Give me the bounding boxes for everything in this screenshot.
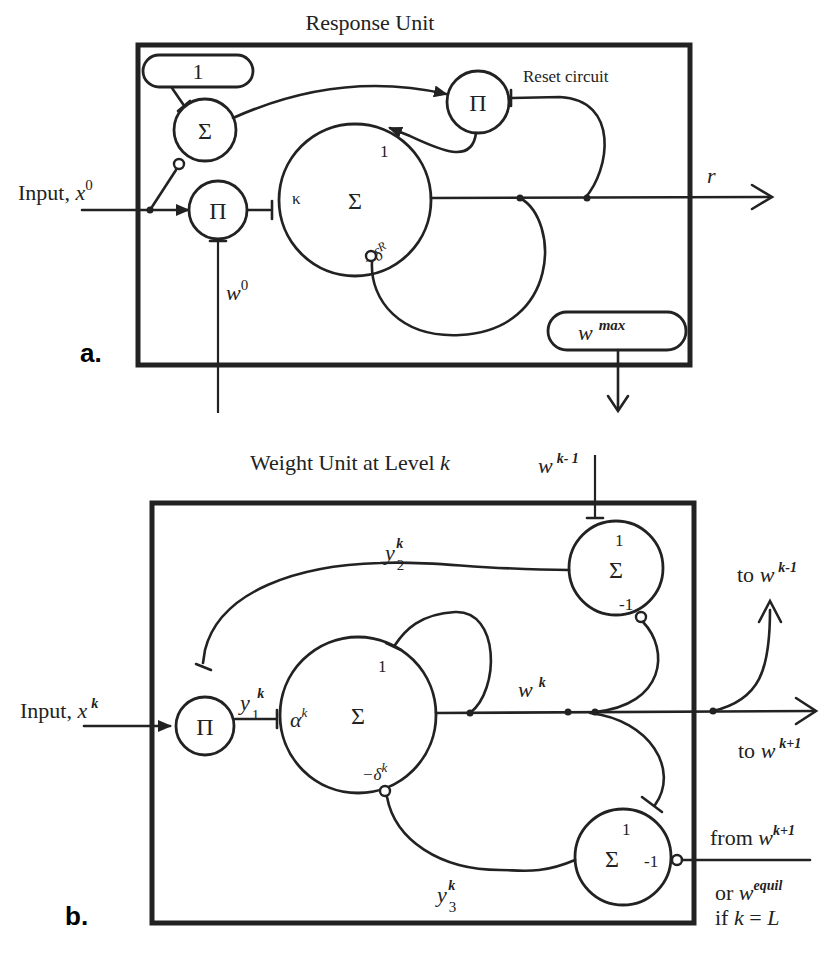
upper-sum-minus-gain: -1 <box>619 595 633 614</box>
output-line-wk <box>436 711 815 713</box>
top-input-label: wk- 1 <box>538 451 579 478</box>
output-label-r: r <box>707 163 716 188</box>
panel-b-label: b. <box>65 901 88 931</box>
excitatory-tick-icon <box>196 664 211 670</box>
bias-to-sum-line <box>172 88 185 107</box>
upper-sum-to-output-path <box>595 622 658 712</box>
to-next-label: to wk+1 <box>738 736 801 763</box>
wk-label: wk <box>518 675 546 702</box>
main-gain-label: 1 <box>380 142 389 161</box>
input-label-b: Input, xk <box>20 696 98 723</box>
upper-sum-plus-gain: 1 <box>615 531 624 550</box>
main-gain-label-b: 1 <box>378 657 387 676</box>
y3-signal-path <box>387 797 575 871</box>
kappa-gain-label: κ <box>292 189 301 208</box>
product-symbol: Π <box>209 198 226 224</box>
sum-to-reset-arrow <box>233 86 446 118</box>
y1-label: y1k <box>238 686 264 723</box>
to-prev-level-path <box>713 610 770 711</box>
sum-symbol: Σ <box>198 118 212 144</box>
product-symbol: Π <box>196 714 213 740</box>
sum-symbol: Σ <box>605 846 619 872</box>
y2-label: y2k <box>383 536 404 573</box>
junction-dot <box>565 709 572 716</box>
bias-constant-value: 1 <box>193 59 204 84</box>
input-to-sum-line <box>150 170 176 210</box>
panel-a-response-unit: Response Unit a. 1 Σ Π Reset circuit Inp… <box>18 10 772 413</box>
input-label-a: Input, x0 <box>18 177 93 205</box>
inhibitory-circle-icon <box>174 159 184 169</box>
to-prev-label: to wk-1 <box>737 560 797 587</box>
sum-symbol: Σ <box>609 557 623 583</box>
sum-symbol: Σ <box>348 188 362 214</box>
diagram-canvas: Response Unit a. 1 Σ Π Reset circuit Inp… <box>0 0 839 960</box>
inhibitory-circle-icon <box>672 855 682 865</box>
from-next-label: from wk+1 <box>710 823 795 850</box>
sum-symbol: Σ <box>351 703 365 729</box>
panel-a-title: Response Unit <box>306 10 435 35</box>
output-feedback-to-reset <box>512 97 605 198</box>
product-symbol: Π <box>469 90 486 116</box>
output-line-r <box>431 197 770 198</box>
if-condition-label: if k = L <box>715 905 779 930</box>
reset-circuit-label: Reset circuit <box>523 67 609 86</box>
panel-b-weight-unit: Weight Unit at Level k b. wk- 1 Σ 1 -1 y… <box>20 450 816 931</box>
weight-label-a: w0 <box>226 277 248 305</box>
inhibitory-circle-icon <box>366 251 376 261</box>
junction-dot <box>584 195 591 202</box>
or-equil-label: or wequil <box>715 878 782 905</box>
panel-b-title: Weight Unit at Level k <box>250 450 451 475</box>
junction-dot <box>467 710 474 717</box>
panel-a-label: a. <box>80 338 102 368</box>
output-to-lower-sum-path <box>590 713 664 805</box>
lower-sum-minus-gain: -1 <box>644 852 658 871</box>
lower-sum-plus-gain: 1 <box>622 820 631 839</box>
inhibitory-circle-icon <box>636 612 646 622</box>
inhibitory-circle-icon <box>380 786 390 796</box>
y3-label: y3k <box>435 878 456 915</box>
